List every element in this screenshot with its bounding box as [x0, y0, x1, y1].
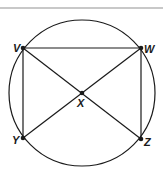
- label-v: V: [13, 42, 22, 54]
- label-y: Y: [12, 134, 21, 146]
- point-w: [139, 46, 144, 51]
- point-v: [21, 46, 26, 51]
- label-z: Z: [143, 136, 152, 148]
- circle-diagram: V W X Y Z: [0, 0, 163, 179]
- point-y: [21, 136, 26, 141]
- label-w: W: [144, 43, 156, 55]
- label-x: X: [76, 97, 85, 109]
- point-x: [80, 91, 85, 96]
- point-z: [139, 137, 144, 142]
